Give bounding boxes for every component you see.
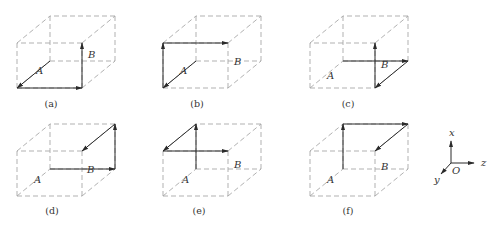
cube-edges <box>310 16 408 88</box>
panel-a: AB(a) <box>17 16 115 109</box>
point-label-b: B <box>86 164 94 175</box>
point-label-b: B <box>380 59 388 70</box>
cube-edge <box>310 124 343 151</box>
cube-edges <box>17 16 115 88</box>
vector-path <box>50 124 115 169</box>
panel-caption: (c) <box>342 98 355 109</box>
vector-path <box>343 43 408 88</box>
panel-b: AB(b) <box>163 16 261 109</box>
point-label-b: B <box>380 161 388 172</box>
vector-path <box>17 43 82 88</box>
cube-edge <box>228 16 261 43</box>
vector-path <box>343 124 408 169</box>
cube-edge <box>17 124 50 151</box>
cube-edges <box>163 16 261 88</box>
point-label-a: A <box>326 174 334 185</box>
cube-edges <box>17 124 115 196</box>
cube-edge <box>375 16 408 43</box>
origin-label: O <box>452 165 460 176</box>
panel-caption: (f) <box>343 205 354 216</box>
cube-edge <box>228 124 261 151</box>
cube-edge <box>17 16 50 43</box>
panel-caption: (d) <box>45 205 59 216</box>
vector-path <box>163 43 228 88</box>
panel-d: AB(d) <box>17 124 115 216</box>
vector-arrow <box>163 124 196 151</box>
panel-caption: (e) <box>192 205 205 216</box>
cube-edge <box>228 169 261 196</box>
panels-group: AB(a)AB(b)AB(c)AB(d)AB(e)AB(f) <box>17 16 408 216</box>
panel-f: AB(f) <box>310 124 408 216</box>
x-axis-label: x <box>449 127 455 138</box>
point-label-b: B <box>87 49 95 60</box>
cube-edges <box>163 124 261 196</box>
point-label-a: A <box>33 174 41 185</box>
cube-vector-diagram: AB(a)AB(b)AB(c)AB(d)AB(e)AB(f) xzyO <box>0 0 500 229</box>
coordinate-axes: xzyO <box>433 127 487 185</box>
y-axis-arrow <box>441 163 451 174</box>
cube-edge <box>310 16 343 43</box>
vector-arrow <box>375 124 408 151</box>
cube-edge <box>163 169 196 196</box>
point-label-a: A <box>326 70 334 81</box>
vector-path <box>163 124 228 169</box>
point-label-a: A <box>181 174 189 185</box>
z-axis-label: z <box>480 157 487 168</box>
y-axis-label: y <box>433 174 440 185</box>
point-label-a: A <box>35 65 43 76</box>
point-label-b: B <box>233 159 241 170</box>
cube-edge <box>82 16 115 43</box>
cube-edges <box>310 124 408 196</box>
panel-caption: (b) <box>190 98 204 109</box>
cube-edge <box>82 61 115 88</box>
vector-arrow <box>17 61 50 88</box>
cube-edge <box>163 16 196 43</box>
point-label-b: B <box>233 56 241 67</box>
cube-edge <box>228 61 261 88</box>
vector-arrow <box>375 61 408 88</box>
vector-arrow <box>82 124 115 151</box>
point-label-a: A <box>179 65 187 76</box>
cube-edge <box>375 169 408 196</box>
panel-e: AB(e) <box>163 124 261 216</box>
panel-caption: (a) <box>44 98 57 109</box>
panel-c: AB(c) <box>310 16 408 109</box>
